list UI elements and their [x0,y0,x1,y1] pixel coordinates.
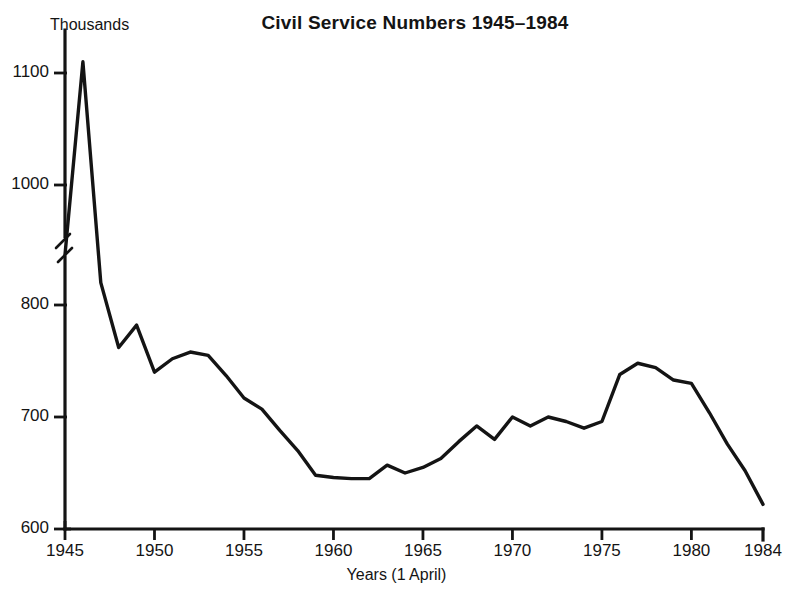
y-tick-label: 700 [0,406,49,426]
x-tick-label: 1960 [298,541,368,561]
x-tick-label: 1980 [656,541,726,561]
y-tick-label: 1000 [0,174,49,194]
y-tick-label: 1100 [0,62,49,82]
x-tick-label: 1950 [119,541,189,561]
y-tick-label: 600 [0,518,49,538]
axes-group [65,30,763,540]
plot-area [0,0,793,604]
x-tick-label: 1975 [567,541,637,561]
x-tick-label: 1984 [728,541,793,561]
y-tick-marks [54,73,71,529]
y-tick-label: 800 [0,294,49,314]
chart-figure: Civil Service Numbers 1945–1984 Thousand… [0,0,793,604]
data-series-line [65,62,763,505]
x-tick-label: 1965 [388,541,458,561]
x-tick-label: 1945 [30,541,100,561]
x-tick-label: 1970 [477,541,547,561]
x-tick-label: 1955 [209,541,279,561]
